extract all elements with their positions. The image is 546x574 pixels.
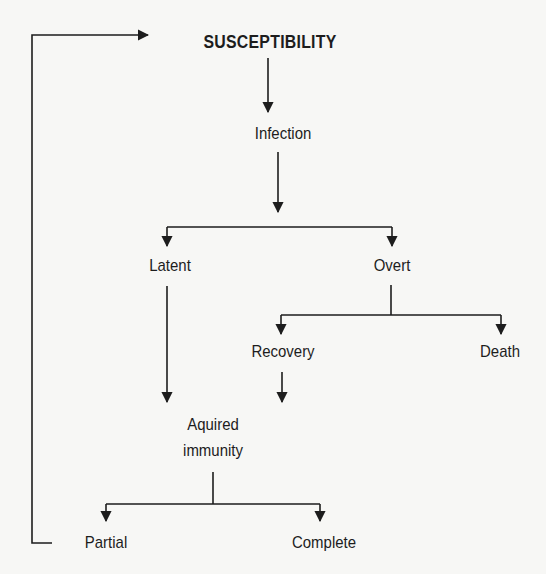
node-infection: Infection <box>255 121 312 147</box>
feedback-loop-arrow <box>32 35 148 543</box>
node-latent: Latent <box>149 253 191 279</box>
node-recovery: Recovery <box>251 339 314 365</box>
node-overt: Overt <box>374 253 411 279</box>
node-partial: Partial <box>85 530 127 556</box>
node-death: Death <box>480 339 520 365</box>
node-acquired-immunity: Aquired immunity <box>183 412 243 464</box>
node-complete: Complete <box>292 530 356 556</box>
node-susceptibility: SUSCEPTIBILITY <box>203 29 336 55</box>
flow-diagram: SUSCEPTIBILITY Infection Latent Overt Re… <box>0 0 546 574</box>
connector-layer <box>0 0 546 574</box>
